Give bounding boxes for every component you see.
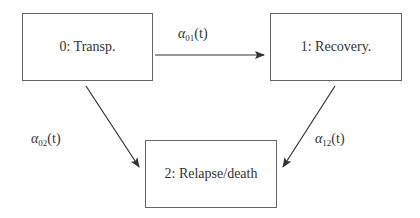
- state-2-relapse-death: 2: Relapse/death: [145, 140, 277, 208]
- state-0-transplant: 0: Transp.: [22, 13, 153, 81]
- arrow-0-to-2: [86, 86, 139, 167]
- arrow-1-to-2: [283, 86, 335, 167]
- state-1-recovery: 1: Recovery.: [270, 13, 402, 81]
- state-1-label: 1: Recovery.: [301, 39, 372, 55]
- state-2-label: 2: Relapse/death: [165, 166, 258, 182]
- transition-label-02: α02(t): [31, 131, 61, 148]
- transition-label-12: α12(t): [315, 131, 345, 148]
- transition-label-01: α01(t): [178, 26, 208, 43]
- state-0-label: 0: Transp.: [59, 39, 115, 55]
